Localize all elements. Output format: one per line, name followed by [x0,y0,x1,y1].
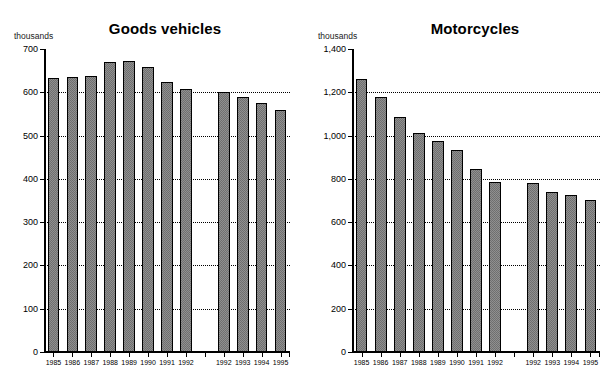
y-axis-tick [40,222,45,223]
y-axis-tick-label: 300 [23,217,38,227]
x-axis-tick [72,352,73,357]
bar [85,76,97,352]
bar [48,78,60,352]
bar [394,117,406,352]
chart-title-motorcycles: Motorcycles [350,20,600,37]
y-axis-tick-label: 1,400 [323,44,346,54]
y-axis-tick-label: 400 [331,260,346,270]
x-axis-tick-label: 1991 [159,359,175,366]
y-axis-tick [348,352,353,353]
x-axis-tick-label: 1995 [273,359,289,366]
bar [275,110,287,352]
y-axis-tick-label: 1,000 [323,131,346,141]
y-axis-tick-label: 0 [341,347,346,357]
x-axis-tick-label: 1990 [140,359,156,366]
x-axis-tick-label: 1990 [449,359,465,366]
x-axis-tick-label: 1995 [583,359,599,366]
bar [180,89,192,352]
y-axis-line [352,49,354,352]
y-axis-tick-label: 0 [33,347,38,357]
y-axis-tick-label: 700 [23,44,38,54]
y-axis-tick-label: 600 [331,217,346,227]
x-axis-tick [514,352,515,357]
bar [256,103,268,352]
x-axis-tick [167,352,168,357]
bar [375,97,387,352]
x-axis-tick [495,352,496,357]
bar [356,79,368,352]
y-axis-tick [40,352,45,353]
figure-two-bar-charts: Goods vehicles thousands 010020030040050… [0,0,616,389]
y-axis-tick [348,92,353,93]
chart-panel-motorcycles: Motorcycles thousands 02004006008001,000… [308,0,616,389]
bar [527,183,539,352]
x-axis-tick-label: 1987 [392,359,408,366]
y-axis-tick [348,265,353,266]
bar [237,97,249,352]
x-axis-tick-label: 1994 [564,359,580,366]
x-axis-tick-label: 1989 [121,359,137,366]
y-axis-tick [348,222,353,223]
bar [413,133,425,352]
x-axis-tick-label: 1988 [411,359,427,366]
x-axis-tick [381,352,382,357]
chart-title-goods-vehicles: Goods vehicles [40,20,290,37]
y-axis-tick [40,179,45,180]
y-axis-tick [40,309,45,310]
x-axis-tick [205,352,206,357]
y-axis-tick [348,136,353,137]
x-axis-tick [110,352,111,357]
chart-panel-goods-vehicles: Goods vehicles thousands 010020030040050… [0,0,308,389]
bar [161,82,173,352]
y-axis-units-label-goods-vehicles: thousands [14,31,53,41]
bar [451,150,463,352]
y-axis-tick-label: 1,200 [323,87,346,97]
x-axis-tick-label: 1988 [102,359,118,366]
gridline [352,92,600,93]
x-axis-tick-label: 1986 [373,359,389,366]
x-axis-tick-label: 1991 [468,359,484,366]
x-axis-tick [457,352,458,357]
x-axis-tick-label: 1985 [354,359,370,366]
x-axis-tick-label: 1986 [65,359,81,366]
x-axis-tick-label: 1993 [235,359,251,366]
bar [218,92,230,352]
y-axis-tick-label: 200 [23,260,38,270]
y-axis-tick [348,309,353,310]
y-axis-tick [40,49,45,50]
x-axis-tick-label: 1993 [545,359,561,366]
x-axis-tick [91,352,92,357]
x-axis-tick [262,352,263,357]
x-axis-tick [400,352,401,357]
x-axis-tick [224,352,225,357]
x-axis-tick [362,352,363,357]
x-axis-tick [281,352,282,357]
x-axis-tick [148,352,149,357]
x-axis-tick [186,352,187,357]
x-axis-tick [476,352,477,357]
x-axis-tick-label: 1992 [216,359,232,366]
bar [470,169,482,352]
y-axis-units-label-motorcycles: thousands [318,31,357,41]
plot-area-goods-vehicles: 0100200300400500600700198519861987198819… [44,49,290,352]
x-axis-tick-label: 1987 [84,359,100,366]
y-axis-tick-label: 500 [23,131,38,141]
x-axis-tick-label: 1985 [46,359,62,366]
y-axis-tick [348,49,353,50]
x-axis-tick [243,352,244,357]
x-axis-tick [590,352,591,357]
y-axis-tick-label: 100 [23,304,38,314]
y-axis-tick [40,136,45,137]
y-axis-tick [40,92,45,93]
y-axis-tick-label: 600 [23,87,38,97]
bar [546,192,558,352]
bar [104,62,116,352]
y-axis-tick-label: 800 [331,174,346,184]
bar [123,61,135,352]
x-axis-tick-label: 1989 [430,359,446,366]
y-axis-tick [348,179,353,180]
x-axis-tick [599,352,600,357]
x-axis-tick-label: 1992 [525,359,541,366]
x-axis-tick [571,352,572,357]
x-axis-tick [533,352,534,357]
